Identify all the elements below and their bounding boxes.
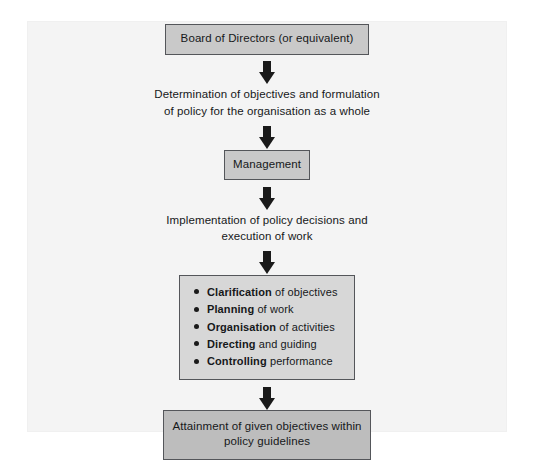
- list-item: Organisation of activities: [194, 320, 344, 335]
- down-arrow-icon-4: [259, 251, 275, 270]
- bullet-dot-icon: [194, 307, 199, 312]
- activity-rest: of objectives: [272, 286, 338, 298]
- down-arrow-icon-1: [259, 61, 275, 80]
- arrow-head: [259, 137, 275, 149]
- arrow-head: [259, 198, 275, 210]
- node-management[interactable]: Management: [224, 150, 310, 181]
- flowchart: Board of Directors (or equivalent) Deter…: [0, 0, 534, 460]
- node-management-activities[interactable]: Clarification of objectives Planning of …: [179, 275, 355, 380]
- activity-term: Planning: [207, 303, 254, 315]
- arrow-head: [259, 262, 275, 274]
- activity-rest: of activities: [276, 321, 335, 333]
- step-implementation-line-1: Implementation of policy decisions and: [166, 212, 367, 229]
- node-attainment-line-2: policy guidelines: [172, 434, 362, 450]
- step-determination-line-1: Determination of objectives and formulat…: [154, 86, 379, 103]
- activities-list: Clarification of objectives Planning of …: [194, 285, 344, 369]
- activity-term: Directing: [207, 338, 256, 350]
- diagram-canvas: Board of Directors (or equivalent) Deter…: [0, 0, 534, 460]
- bullet-dot-icon: [194, 289, 199, 294]
- step-implementation-line-2: execution of work: [166, 228, 367, 245]
- step-determination-line-2: of policy for the organisation as a whol…: [154, 103, 379, 120]
- activity-term: Controlling: [207, 355, 267, 367]
- down-arrow-icon-3: [259, 187, 275, 206]
- list-item: Clarification of objectives: [194, 285, 344, 300]
- list-item: Directing and guiding: [194, 337, 344, 352]
- step-implementation-of-policy: Implementation of policy decisions and e…: [166, 212, 367, 245]
- arrow-head: [259, 398, 275, 410]
- activity-rest: performance: [267, 355, 333, 367]
- node-management-label: Management: [233, 158, 301, 170]
- list-item: Controlling performance: [194, 354, 344, 369]
- bullet-dot-icon: [194, 359, 199, 364]
- arrow-head: [259, 72, 275, 84]
- bullet-dot-icon: [194, 341, 199, 346]
- step-determination-of-objectives: Determination of objectives and formulat…: [154, 86, 379, 119]
- activity-term: Clarification: [207, 286, 272, 298]
- down-arrow-icon-5: [259, 387, 275, 406]
- node-board-label: Board of Directors (or equivalent): [181, 32, 354, 44]
- node-attainment-of-objectives[interactable]: Attainment of given objectives within po…: [163, 410, 371, 460]
- activity-rest: of work: [254, 303, 293, 315]
- down-arrow-icon-2: [259, 126, 275, 145]
- node-board-of-directors[interactable]: Board of Directors (or equivalent): [165, 24, 369, 55]
- activity-term: Organisation: [207, 321, 276, 333]
- activity-rest: and guiding: [256, 338, 317, 350]
- node-attainment-line-1: Attainment of given objectives within: [172, 419, 362, 435]
- list-item: Planning of work: [194, 302, 344, 317]
- bullet-dot-icon: [194, 324, 199, 329]
